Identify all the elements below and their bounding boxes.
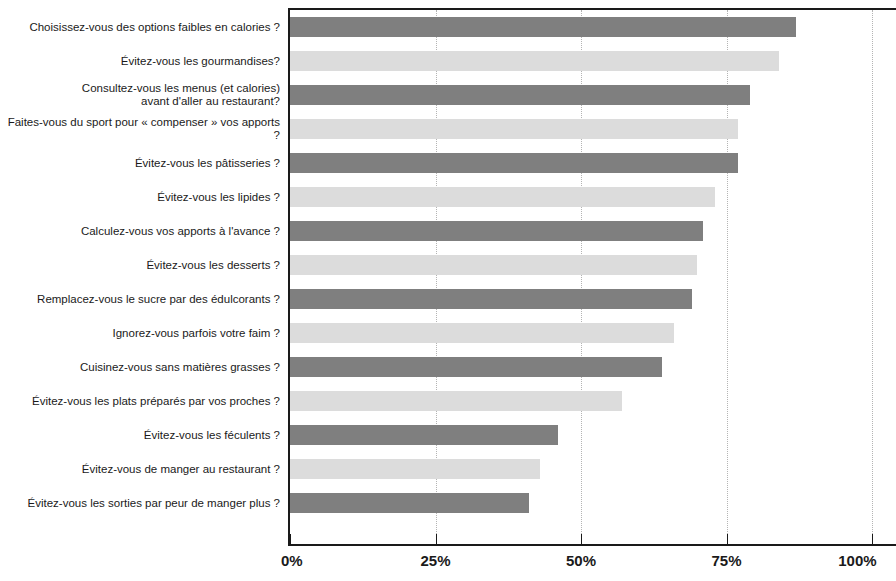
bar (290, 153, 738, 173)
bar-row: Évitez-vous les lipides ? (0, 180, 896, 214)
bar (290, 289, 692, 309)
bar (290, 391, 622, 411)
bar-track (290, 452, 872, 486)
bar (290, 255, 697, 275)
bar-row: Évitez-vous de manger au restaurant ? (0, 452, 896, 486)
tick-mark-75% (727, 534, 728, 545)
bar (290, 493, 529, 513)
bar (290, 459, 540, 479)
bar-track (290, 282, 872, 316)
bar-track (290, 350, 872, 384)
bar-category-label: Faites-vous du sport pour « compenser » … (0, 112, 284, 146)
bar (290, 51, 779, 71)
x-axis-line (288, 544, 896, 546)
bar-category-label: Choisissez-vous des options faibles en c… (0, 10, 284, 44)
bar-track (290, 10, 872, 44)
bar-row: Consultez-vous les menus (et calories) a… (0, 78, 896, 112)
bar-row: Remplacez-vous le sucre par des édulcora… (0, 282, 896, 316)
bar-track (290, 180, 872, 214)
bar-category-label: Cuisinez-vous sans matières grasses ? (0, 350, 284, 384)
bar-category-label: Évitez-vous de manger au restaurant ? (0, 452, 284, 486)
x-axis-tick-label: 75% (711, 552, 741, 569)
bar (290, 17, 796, 37)
bar-category-label: Évitez-vous les féculents ? (0, 418, 284, 452)
bar (290, 357, 662, 377)
bar-row: Ignorez-vous parfois votre faim ? (0, 316, 896, 350)
bar-chart: Choisissez-vous des options faibles en c… (0, 0, 896, 581)
bar-row: Évitez-vous les gourmandises? (0, 44, 896, 78)
bar (290, 221, 703, 241)
bar-track (290, 214, 872, 248)
x-axis-tick-label: 100% (838, 552, 876, 569)
x-axis-tick-label: 25% (420, 552, 450, 569)
bar (290, 425, 558, 445)
bar-row: Faites-vous du sport pour « compenser » … (0, 112, 896, 146)
bar-category-label: Évitez-vous les sorties par peur de mang… (0, 486, 284, 520)
bar-category-label: Évitez-vous les lipides ? (0, 180, 284, 214)
bar (290, 85, 750, 105)
bar-row: Évitez-vous les pâtisseries ? (0, 146, 896, 180)
bar-track (290, 384, 872, 418)
tick-mark-50% (581, 534, 582, 545)
bar-category-label: Évitez-vous les gourmandises? (0, 44, 284, 78)
bar-row: Évitez-vous les plats préparés par vos p… (0, 384, 896, 418)
bar-track (290, 78, 872, 112)
bar-track (290, 486, 872, 520)
bar-track (290, 418, 872, 452)
bar-row: Cuisinez-vous sans matières grasses ? (0, 350, 896, 384)
bar-row: Évitez-vous les desserts ? (0, 248, 896, 282)
bar-row: Calculez-vous vos apports à l'avance ? (0, 214, 896, 248)
bar-track (290, 248, 872, 282)
bar-track (290, 112, 872, 146)
bar-row: Évitez-vous les féculents ? (0, 418, 896, 452)
bar (290, 187, 715, 207)
bar-rows: Choisissez-vous des options faibles en c… (0, 10, 896, 520)
bar-category-label: Évitez-vous les plats préparés par vos p… (0, 384, 284, 418)
x-axis-tick-label: 50% (566, 552, 596, 569)
bar-row: Choisissez-vous des options faibles en c… (0, 10, 896, 44)
bar-category-label: Évitez-vous les pâtisseries ? (0, 146, 284, 180)
bar (290, 323, 674, 343)
bar-category-label: Calculez-vous vos apports à l'avance ? (0, 214, 284, 248)
bar-track (290, 316, 872, 350)
bar-track (290, 44, 872, 78)
tick-mark-0% (290, 534, 291, 545)
tick-mark-25% (436, 534, 437, 545)
x-axis-tick-label: 0% (281, 552, 303, 569)
bar-track (290, 146, 872, 180)
bar-category-label: Ignorez-vous parfois votre faim ? (0, 316, 284, 350)
bar-row: Évitez-vous les sorties par peur de mang… (0, 486, 896, 520)
bar-category-label: Remplacez-vous le sucre par des édulcora… (0, 282, 284, 316)
bar-category-label: Évitez-vous les desserts ? (0, 248, 284, 282)
bar-category-label: Consultez-vous les menus (et calories) a… (0, 78, 284, 112)
tick-mark-100% (872, 534, 873, 545)
bar (290, 119, 738, 139)
